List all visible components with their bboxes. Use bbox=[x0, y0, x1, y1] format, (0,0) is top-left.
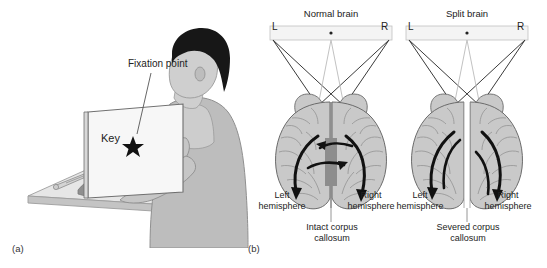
projection-lines-dark-normal bbox=[273, 40, 389, 106]
split-brain-left-hemisphere-label: Left hemisphere bbox=[394, 190, 446, 211]
normal-brain-stimulus-left-letter: L bbox=[272, 21, 278, 32]
normal-brain-right-hemisphere-label: Right hemisphere bbox=[345, 190, 397, 211]
fixation-dot-icon bbox=[329, 31, 332, 34]
panel-a-illustration bbox=[0, 8, 260, 248]
screen-left-edge bbox=[84, 112, 88, 198]
normal-brain-left-hemisphere-label: Left hemisphere bbox=[258, 190, 306, 211]
diagram-title-normal-brain: Normal brain bbox=[276, 8, 386, 19]
projection-lines-light-normal bbox=[318, 40, 344, 106]
diagram-title-split-brain: Split brain bbox=[412, 8, 522, 19]
split-brain-stimulus-right-letter: R bbox=[517, 21, 524, 32]
projection-lines-light-split bbox=[454, 40, 480, 106]
split-brain-callosum-label: Severed corpus callosum bbox=[406, 222, 530, 243]
panel-a-label: (a) bbox=[12, 243, 24, 254]
split-brain-right-hemisphere-label: Right hemisphere bbox=[481, 190, 535, 211]
key-label: Key bbox=[101, 132, 120, 144]
panel-b-label: (b) bbox=[248, 243, 260, 254]
fixation-dot-icon bbox=[465, 31, 468, 34]
person-ear bbox=[195, 67, 205, 81]
split-brain-stimulus-left-letter: L bbox=[408, 21, 414, 32]
corpus-callosum-severed bbox=[464, 102, 470, 208]
projection-lines-dark-split bbox=[409, 40, 525, 106]
figure-split-brain-experiment: Fixation point Key (a) Normal brain Spli… bbox=[0, 0, 547, 268]
fixation-point-label: Fixation point bbox=[128, 58, 187, 69]
normal-brain-stimulus-right-letter: R bbox=[381, 21, 388, 32]
normal-brain-callosum-label: Intact corpus callosum bbox=[272, 222, 392, 243]
